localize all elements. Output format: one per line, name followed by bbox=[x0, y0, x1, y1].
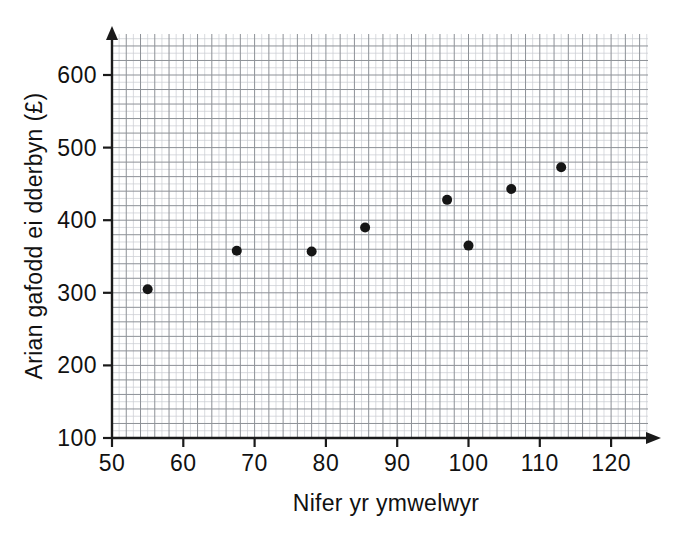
x-axis-arrow-icon bbox=[646, 432, 661, 444]
grid-minor bbox=[112, 34, 648, 438]
x-tick-label: 50 bbox=[99, 450, 126, 476]
data-point bbox=[360, 222, 370, 232]
tick-marks bbox=[103, 75, 611, 447]
data-point bbox=[464, 241, 474, 251]
x-axis-title: Nifer yr ymwelwyr bbox=[293, 490, 480, 516]
data-point bbox=[232, 246, 242, 256]
x-tick-label: 80 bbox=[313, 450, 340, 476]
grid-major bbox=[112, 34, 648, 438]
data-point bbox=[307, 246, 317, 256]
data-point bbox=[442, 195, 452, 205]
y-tick-label: 600 bbox=[57, 62, 97, 88]
y-axis-arrow-icon bbox=[106, 26, 118, 40]
x-tick-label: 60 bbox=[170, 450, 197, 476]
y-tick-label: 200 bbox=[57, 352, 97, 378]
data-point bbox=[556, 162, 566, 172]
x-tick-label: 100 bbox=[449, 450, 489, 476]
y-tick-label: 100 bbox=[57, 425, 97, 451]
y-tick-label: 500 bbox=[57, 135, 97, 161]
y-tick-labels: 100200300400500600 bbox=[57, 62, 97, 451]
scatter-chart: 5060708090100110120 100200300400500600 N… bbox=[0, 0, 676, 544]
x-tick-label: 70 bbox=[241, 450, 268, 476]
y-axis-title: Arian gafodd ei dderbyn (£) bbox=[21, 93, 47, 380]
y-tick-label: 400 bbox=[57, 207, 97, 233]
plot-svg: 5060708090100110120 100200300400500600 N… bbox=[0, 0, 676, 544]
x-tick-labels: 5060708090100110120 bbox=[99, 450, 631, 476]
x-tick-label: 120 bbox=[591, 450, 631, 476]
x-tick-label: 110 bbox=[521, 450, 559, 476]
data-point bbox=[506, 184, 516, 194]
x-tick-label: 90 bbox=[384, 450, 411, 476]
y-tick-label: 300 bbox=[57, 280, 97, 306]
data-point bbox=[143, 284, 153, 294]
